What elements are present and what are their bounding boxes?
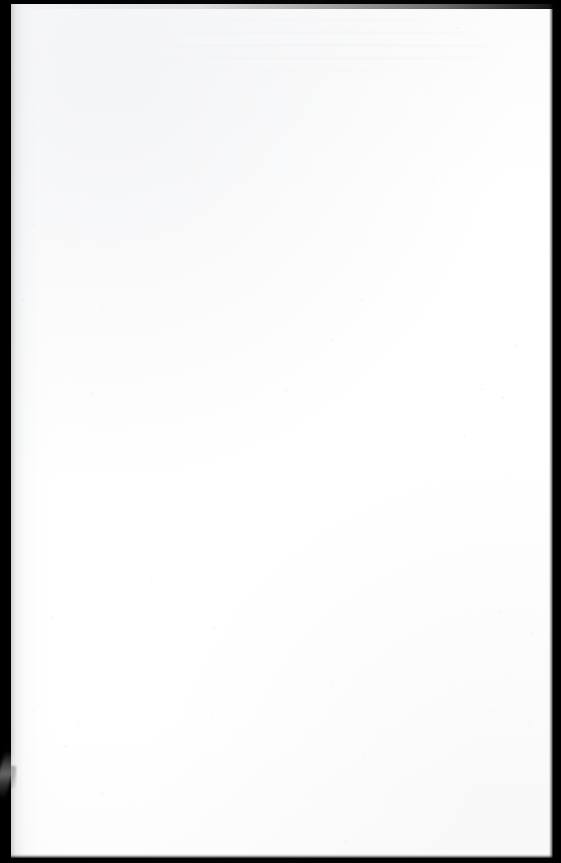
bottom-edge-shading	[11, 854, 553, 858]
page-footer	[71, 814, 491, 828]
page-body-text	[71, 64, 491, 784]
page-sheet	[11, 4, 553, 858]
right-edge-shading	[549, 4, 553, 858]
page-header	[71, 30, 491, 44]
top-edge-shading	[11, 4, 553, 9]
gutter-shadow	[11, 4, 59, 858]
scan-frame	[0, 0, 561, 863]
